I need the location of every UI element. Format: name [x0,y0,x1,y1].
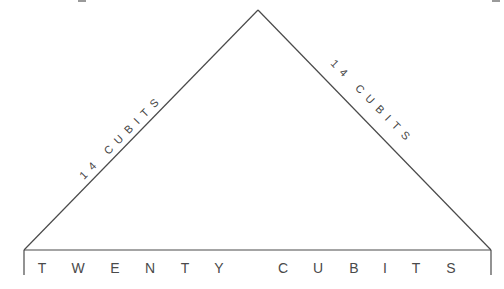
left-side-line [24,10,258,250]
base-label-letter: W [71,260,85,276]
triangle-diagram: 14 CUBITS 14 CUBITS TWENTYCUBITS [0,0,504,289]
base-label-letter: C [278,260,288,276]
base-label-letter: U [313,260,323,276]
base-label-letter: T [181,260,190,276]
top-edge-fragment-left [78,0,86,2]
base-label-letter: N [145,260,155,276]
right-side-label: 14 CUBITS [329,57,418,147]
right-side-line [258,10,491,250]
base-label-letter: B [349,260,358,276]
left-side-label: 14 CUBITS [77,92,166,182]
base-label-letter: E [110,260,119,276]
top-edge-fragment-right [492,0,500,2]
base-label-letter: T [38,260,47,276]
base-label-letter: Y [214,260,224,276]
base-label-letter: S [446,260,455,276]
base-label-letter: I [383,260,387,276]
base-label-letter: T [412,260,421,276]
base-label: TWENTYCUBITS [38,260,456,276]
